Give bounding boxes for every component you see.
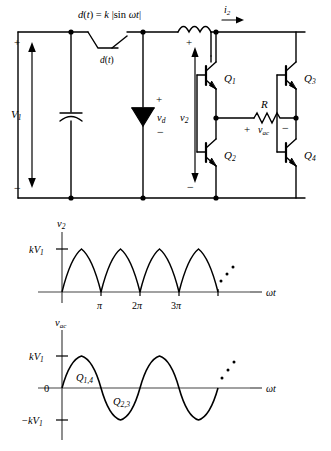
v2-plot-labels: v2 ωt kV1 π 2π 3π bbox=[29, 218, 276, 311]
q1-label: Q1 bbox=[224, 72, 236, 86]
q3-label: Q3 bbox=[304, 72, 316, 86]
inductor-symbol bbox=[178, 27, 211, 33]
node-dot-diode-bottom bbox=[140, 195, 145, 200]
load-minus-label: − bbox=[282, 121, 289, 135]
vac-ytick-label-minus-kv1: −kV1 bbox=[22, 415, 43, 428]
q3-collector-lead bbox=[286, 62, 296, 71]
q2-collector-lead bbox=[206, 139, 216, 148]
v2-ytick-label-kv1: kV1 bbox=[29, 244, 44, 257]
v2-label: v2 bbox=[180, 112, 189, 125]
vac-annotation-q14: Q1,4 bbox=[76, 372, 93, 385]
source-minus-label: − bbox=[14, 181, 21, 195]
node-dot-load-right bbox=[293, 115, 298, 120]
v2-xtick-label-2pi: 2π bbox=[132, 300, 143, 311]
diode-minus-label: − bbox=[157, 125, 164, 139]
i2-label: i2 bbox=[224, 4, 231, 17]
v2-xaxis-label: ωt bbox=[266, 287, 276, 298]
diode-plus-label: + bbox=[156, 93, 162, 105]
q3-emitter-arrow bbox=[290, 82, 297, 90]
v1-label: V1 bbox=[11, 108, 21, 122]
q1-emitter-arrow bbox=[210, 82, 217, 90]
plot-v2: v2 ωt kV1 π 2π 3π bbox=[29, 218, 276, 311]
node-dot-bridge-bottom bbox=[213, 195, 218, 200]
v2-arrow-head-up bbox=[191, 47, 198, 57]
q2-label: Q2 bbox=[224, 149, 236, 163]
diode-label: vd bbox=[157, 112, 166, 125]
vac-plot-labels: vac ωt kV1 0 −kV1 Q1,4 Q2,3 bbox=[22, 317, 276, 428]
q2-emitter-arrow bbox=[210, 159, 217, 167]
switch-equation-label: d(t) = k |sin ωt| bbox=[78, 9, 141, 21]
plot-vac: vac ωt kV1 0 −kV1 Q1,4 Q2,3 bbox=[22, 317, 276, 440]
q4-collector-lead bbox=[286, 139, 296, 148]
vac-continuation-dots bbox=[221, 361, 236, 380]
node-dot-load-left bbox=[213, 115, 218, 120]
q4-label: Q4 bbox=[304, 149, 316, 163]
q1-collector-lead bbox=[206, 62, 216, 71]
circuit-and-waveform-figure: d(t) = k |sin ωt| d(t) i2 V1 + − vd + − … bbox=[0, 0, 331, 451]
node-dot-cap-bottom bbox=[68, 195, 73, 200]
switch-symbol-arm bbox=[112, 36, 127, 48]
vac-xaxis-label: ωt bbox=[266, 383, 276, 394]
v2-xtick-label-3pi: 3π bbox=[171, 300, 182, 311]
vac-ytick-label-zero: 0 bbox=[44, 383, 49, 394]
vac-yaxis-label: vac bbox=[55, 317, 67, 330]
switch-label: d(t) bbox=[100, 55, 114, 66]
v2-waveform-curve bbox=[62, 249, 218, 292]
v2-yaxis-label: v2 bbox=[57, 218, 66, 231]
source-plus-label: + bbox=[14, 36, 20, 48]
vac-ytick-label-kv1: kV1 bbox=[29, 351, 44, 364]
v1-arrow-head-down bbox=[28, 178, 36, 188]
switch-symbol-vee bbox=[88, 32, 118, 48]
q4-emitter-arrow bbox=[290, 159, 297, 167]
load-plus-label: + bbox=[244, 123, 250, 135]
node-dot-cap-top bbox=[68, 29, 73, 34]
node-dot-diode-top bbox=[140, 29, 145, 34]
i2-arrow-head bbox=[236, 17, 244, 24]
resistor-label: R bbox=[260, 98, 268, 110]
figure-root: d(t) = k |sin ωt| d(t) i2 V1 + − vd + − … bbox=[0, 0, 331, 451]
v2-xtick-label-pi: π bbox=[97, 300, 103, 311]
load-voltage-label: vac bbox=[258, 124, 270, 137]
node-dot-bridge-top bbox=[213, 29, 218, 34]
v2-plus-label: + bbox=[186, 36, 192, 48]
resistor-symbol bbox=[254, 113, 296, 123]
v2-minus-label: − bbox=[187, 180, 194, 194]
v1-arrow-head-up bbox=[28, 42, 36, 52]
v2-continuation-dots bbox=[220, 266, 235, 283]
vac-annotation-q23: Q2,3 bbox=[113, 396, 130, 409]
diode-triangle bbox=[132, 108, 154, 126]
